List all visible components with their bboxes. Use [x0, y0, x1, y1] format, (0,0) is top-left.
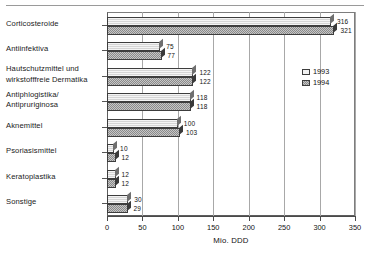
value-label-1994-6: 12 [122, 180, 130, 187]
bar-1993-2 [107, 68, 193, 77]
value-label-1993-5: 10 [120, 145, 128, 152]
category-label-2: Hautschutzmittel undwirkstofffreie Derma… [6, 64, 104, 85]
category-label-6: Keratoplastika [6, 172, 104, 182]
value-label-1993-7: 30 [134, 196, 142, 203]
category-label-line: Antiphlogistika/ [6, 90, 104, 100]
x-tick-250 [284, 216, 285, 221]
legend: 1993 1994 [302, 66, 329, 88]
x-tick-350 [355, 216, 356, 221]
x-tick-label-250: 250 [271, 223, 297, 232]
x-tick-label-300: 300 [307, 223, 333, 232]
x-tick-label-200: 200 [236, 223, 262, 232]
bar-1993-1 [107, 42, 160, 51]
legend-swatch-1994-icon [302, 80, 310, 86]
horizontal-bar-chart: CorticosteroideAntiinfektivaHautschutzmi… [0, 0, 370, 259]
x-tick-150 [213, 216, 214, 221]
bar-1993-5 [107, 144, 114, 153]
gridline-150 [213, 12, 214, 216]
gridline-300 [320, 12, 321, 216]
bar-1994-3 [107, 102, 191, 111]
category-label-line: Aknemittel [6, 121, 104, 131]
bar-1993-0 [107, 17, 331, 26]
bar-1994-6 [107, 179, 116, 188]
gridline-350 [355, 12, 356, 216]
x-tick-label-50: 50 [129, 223, 155, 232]
category-label-line: Antiinfektiva [6, 44, 104, 54]
category-label-7: Sonstige [6, 197, 104, 207]
value-label-1993-6: 12 [122, 171, 130, 178]
x-tick-label-150: 150 [200, 223, 226, 232]
category-label-0: Corticosteroide [6, 19, 104, 29]
value-label-1994-2: 122 [199, 78, 210, 85]
legend-label-1993: 1993 [313, 66, 329, 77]
bar-1994-7 [107, 204, 128, 213]
legend-label-1994: 1994 [313, 77, 329, 88]
value-label-1994-0: 321 [340, 27, 351, 34]
x-tick-label-0: 0 [94, 223, 120, 232]
value-label-1993-1: 75 [166, 43, 174, 50]
x-axis-title: Mio. DDD [107, 236, 355, 245]
category-label-1: Antiinfektiva [6, 44, 104, 54]
bar-1993-3 [107, 93, 191, 102]
x-tick-50 [142, 216, 143, 221]
category-label-line: Antipruriginosa [6, 100, 104, 110]
x-tick-300 [320, 216, 321, 221]
value-label-1994-3: 118 [197, 103, 208, 110]
value-label-1994-4: 103 [186, 129, 197, 136]
x-tick-200 [249, 216, 250, 221]
gridline-200 [249, 12, 250, 216]
bar-1994-2 [107, 77, 193, 86]
value-label-1993-0: 316 [337, 18, 348, 25]
category-label-5: Psoriasismittel [6, 146, 104, 156]
category-label-line: wirkstofffreie Dermatika [6, 75, 104, 85]
bar-1994-4 [107, 128, 180, 137]
category-label-line: Sonstige [6, 197, 104, 207]
category-label-3: Antiphlogistika/Antipruriginosa [6, 90, 104, 111]
x-tick-label-100: 100 [165, 223, 191, 232]
bar-1994-0 [107, 26, 334, 35]
gridline-250 [284, 12, 285, 216]
category-label-line: Psoriasismittel [6, 146, 104, 156]
x-axis-line [107, 216, 355, 217]
value-label-1993-2: 122 [199, 69, 210, 76]
legend-swatch-1993-icon [302, 69, 310, 75]
category-label-4: Aknemittel [6, 121, 104, 131]
value-label-1994-5: 12 [122, 154, 130, 161]
category-label-line: Hautschutzmittel und [6, 64, 104, 74]
legend-item-1993[interactable]: 1993 [302, 66, 329, 77]
bar-1994-1 [107, 51, 162, 60]
value-label-1994-7: 29 [134, 205, 142, 212]
legend-item-1994[interactable]: 1994 [302, 77, 329, 88]
category-label-line: Keratoplastika [6, 172, 104, 182]
value-label-1993-4: 100 [184, 120, 195, 127]
bar-1993-6 [107, 170, 116, 179]
bar-1994-5 [107, 153, 116, 162]
category-label-line: Corticosteroide [6, 19, 104, 29]
x-tick-0 [107, 216, 108, 221]
bar-1993-7 [107, 195, 128, 204]
x-tick-100 [178, 216, 179, 221]
value-label-1993-3: 118 [197, 94, 208, 101]
gridline-100 [178, 12, 179, 216]
value-label-1994-1: 77 [168, 52, 176, 59]
bar-1993-4 [107, 119, 178, 128]
x-tick-label-350: 350 [342, 223, 368, 232]
